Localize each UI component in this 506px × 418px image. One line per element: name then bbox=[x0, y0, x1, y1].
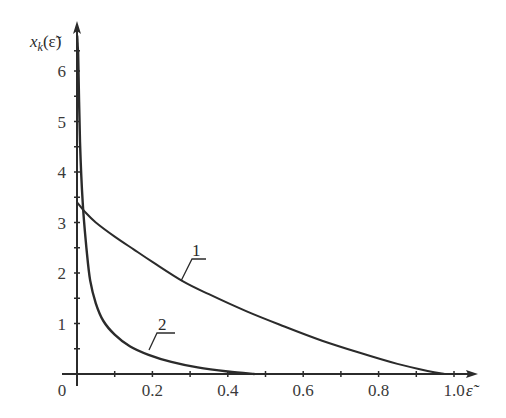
y-tick-label: 5 bbox=[58, 113, 67, 132]
curve-2-leader bbox=[149, 333, 175, 350]
y-tick-label: 4 bbox=[58, 163, 67, 182]
y-tick-label: 3 bbox=[58, 214, 67, 233]
y-axis-title-argument: (ε̃) bbox=[43, 32, 62, 51]
x-tick-label: 0.4 bbox=[217, 381, 239, 400]
labels: 0.20.40.60.81.0012345612ε̃xk(ε̃) bbox=[29, 32, 480, 400]
x-tick-label: 0.8 bbox=[368, 381, 389, 400]
chart-canvas: 0.20.40.60.81.0012345612ε̃xk(ε̃) bbox=[0, 0, 506, 418]
x-axis-title: ε̃ bbox=[466, 381, 480, 400]
curve-1-leader bbox=[181, 259, 206, 281]
y-axis-title: xk(ε̃) bbox=[29, 32, 62, 54]
curve-2-label: 2 bbox=[158, 315, 167, 334]
y-tick-label: 6 bbox=[58, 62, 67, 81]
curve-2-top bbox=[77, 36, 78, 51]
x-tick-label: 1.0 bbox=[443, 381, 464, 400]
y-tick-label: 1 bbox=[58, 315, 67, 334]
y-tick-label: 2 bbox=[58, 264, 67, 283]
curve-1-label: 1 bbox=[192, 241, 201, 260]
curves bbox=[77, 36, 445, 374]
axes bbox=[62, 21, 478, 386]
x-tick-label: 0.2 bbox=[142, 381, 163, 400]
origin-label: 0 bbox=[58, 381, 67, 400]
x-tick-label: 0.6 bbox=[293, 381, 314, 400]
